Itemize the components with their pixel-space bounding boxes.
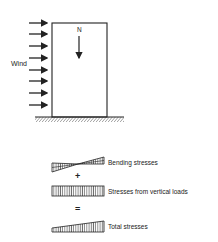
equals-operator: = [75,205,80,214]
vertical-stresses-label: Stresses from vertical loads [108,189,188,196]
vertical-stress-diagram [52,186,104,196]
bending-stress-diagram [52,157,104,172]
wind-label: Wind [11,60,27,67]
total-stress-diagram [52,221,104,232]
bending-stresses-label: Bending stresses [108,160,158,167]
ground-hatch [35,117,124,122]
load-label: N [77,27,82,34]
total-stresses-label: Total stresses [108,224,148,231]
plus-operator: + [75,172,80,181]
diagram-canvas [0,0,218,242]
wind-arrows-icon [29,23,47,105]
